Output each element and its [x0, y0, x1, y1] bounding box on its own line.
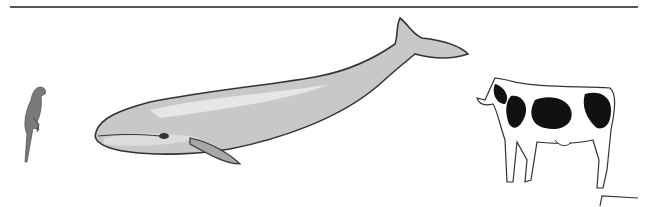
whale-illustration: [90, 14, 475, 174]
partial-figure-corner: [598, 194, 646, 207]
parrot-illustration: [15, 82, 50, 164]
horizontal-rule: [10, 6, 638, 8]
cow-illustration: [475, 70, 625, 192]
